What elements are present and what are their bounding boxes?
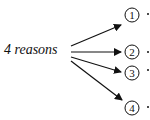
svg-text:2: 2	[129, 46, 135, 58]
target-1: 1	[125, 8, 149, 22]
svg-text:1: 1	[129, 9, 135, 21]
target-4: 4	[125, 101, 149, 115]
svg-text:3: 3	[129, 67, 135, 79]
arrow-3	[71, 57, 121, 72]
arrow-diagram: 1 2 3 4	[0, 0, 150, 120]
target-3: 3	[125, 66, 149, 80]
arrow-4	[71, 61, 122, 100]
svg-text:4: 4	[129, 102, 135, 114]
arrow-1	[71, 25, 121, 46]
target-2: 2	[125, 45, 149, 59]
